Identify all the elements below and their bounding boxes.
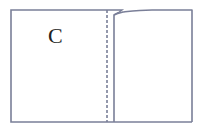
diagram-canvas	[0, 0, 206, 131]
panel-label: C	[48, 25, 63, 47]
fold-flap	[107, 10, 122, 15]
folded-right-panel	[114, 10, 192, 122]
